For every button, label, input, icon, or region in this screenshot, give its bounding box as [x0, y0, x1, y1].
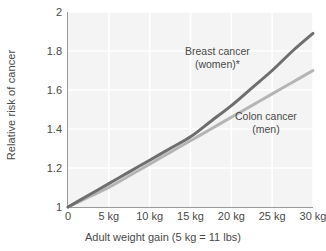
series-label-breast-cancer-line2: (women)* — [185, 58, 250, 71]
y-tick-label: 2 — [18, 6, 62, 18]
x-tick-label: 30 kg — [300, 210, 326, 222]
chart-figure: Relative risk of cancer 11.21.41.61.82 0… — [0, 0, 326, 251]
y-tick-label: 1.8 — [18, 45, 62, 57]
x-tick-label: 0 — [65, 210, 71, 222]
x-tick-label: 15 kg — [177, 210, 204, 222]
series-label-breast-cancer: Breast cancer (women)* — [185, 45, 250, 71]
y-tick-label: 1 — [18, 201, 62, 213]
series-label-colon-cancer-line1: Colon cancer — [235, 110, 297, 123]
series-label-colon-cancer-line2: (men) — [235, 123, 297, 136]
x-tick-label: 5 kg — [98, 210, 119, 222]
x-tick-label: 10 kg — [136, 210, 163, 222]
series-label-colon-cancer: Colon cancer (men) — [235, 110, 297, 136]
x-tick-label: 25 kg — [259, 210, 286, 222]
series-label-breast-cancer-line1: Breast cancer — [185, 45, 250, 58]
y-tick-label: 1.6 — [18, 84, 62, 96]
y-tick-label: 1.4 — [18, 123, 62, 135]
x-axis-line — [67, 207, 313, 208]
x-tick-label: 20 kg — [218, 210, 245, 222]
y-axis-tick-labels: 11.21.41.61.82 — [16, 0, 62, 251]
x-axis-title: Adult weight gain (5 kg = 11 lbs) — [0, 231, 326, 243]
y-tick-label: 1.2 — [18, 162, 62, 174]
x-axis-tick-labels: 05 kg10 kg15 kg20 kg25 kg30 kg — [68, 210, 313, 226]
